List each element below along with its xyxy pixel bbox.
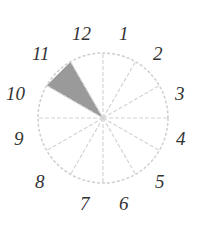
hour-label: 10	[6, 83, 26, 104]
hour-label: 2	[153, 43, 163, 64]
hour-label: 1	[119, 23, 129, 44]
hour-label: 4	[176, 128, 186, 149]
hour-label: 8	[35, 171, 45, 192]
hour-label: 5	[155, 171, 165, 192]
clock-diagram: 12 1 2 3 4 5 6 7 8 9 10 11	[0, 0, 200, 225]
hour-label: 12	[72, 23, 92, 44]
hour-label: 3	[174, 83, 185, 104]
hour-label: 6	[119, 193, 129, 214]
hour-label: 9	[14, 128, 24, 149]
hour-label: 7	[80, 193, 91, 214]
hour-label: 11	[32, 43, 50, 64]
